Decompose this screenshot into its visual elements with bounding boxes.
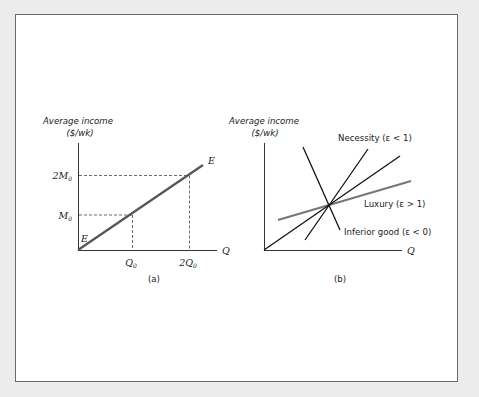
panel-b-x-label: Q [407,245,415,256]
necessity-label: Necessity (ε < 1) [338,133,412,143]
engel-curve-e [78,165,203,250]
panel-a: Average income ($/wk) Q E E M0 2M0 Q0 2Q… [42,116,230,284]
y-tick-m0: M0 [57,210,72,222]
panel-b-caption: (b) [334,274,346,284]
luxury-label: Luxury (ε > 1) [364,199,425,209]
panel-a-y-label-line2: ($/wk) [66,128,93,138]
curve-label-e-top: E [207,155,215,166]
y-tick-2m0: 2M0 [51,170,72,182]
x-tick-2q0: 2Q0 [178,257,197,269]
panel-a-x-label: Q [222,245,230,256]
inferior-good-label: Inferior good (ε < 0) [344,227,431,237]
x-tick-q0: Q0 [125,257,137,269]
panel-a-caption: (a) [148,274,160,284]
panel-b: Average income ($/wk) Q Necessity (ε < 1… [228,116,431,284]
engel-curve-figure: Average income ($/wk) Q E E M0 2M0 Q0 2Q… [0,0,479,397]
panel-b-y-label-line1: Average income [228,116,299,126]
inferior-good-curve [303,147,340,230]
curve-label-e-bottom: E [80,233,88,244]
panel-b-y-label-line2: ($/wk) [251,128,278,138]
panel-a-y-label-line1: Average income [42,116,113,126]
